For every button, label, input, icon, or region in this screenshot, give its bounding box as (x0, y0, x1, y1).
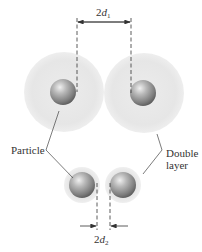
dispersed-state (24, 52, 184, 133)
diagram-graphic (0, 0, 202, 252)
double-layer-label: Double layer (166, 147, 198, 171)
compressed-state (64, 167, 141, 203)
particle-left-top (50, 79, 76, 105)
top-dimension-label: 2d1 (96, 6, 111, 22)
particle-label: Particle (11, 144, 45, 156)
particle-left-bottom (69, 172, 95, 198)
particle-right-top (130, 80, 156, 106)
bottom-dimension-label: 2d2 (94, 233, 109, 249)
double-layer-diagram: 2d1 2d2 Particle Double layer (0, 0, 202, 252)
double-layer-leader (143, 134, 162, 174)
particle-right-bottom (110, 172, 136, 198)
